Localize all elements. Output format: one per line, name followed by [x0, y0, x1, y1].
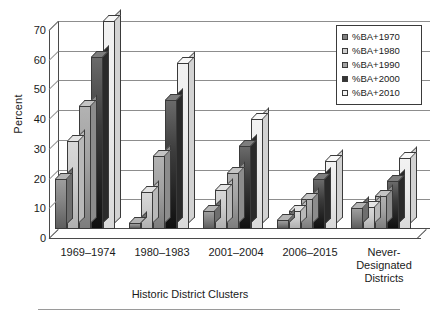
- legend-swatch-icon: [342, 34, 348, 40]
- x-tick-label: 2001–2004: [197, 246, 275, 259]
- bar-ba1970-2[interactable]: [129, 223, 141, 229]
- y-axis-tick-labels: 010203040506070: [16, 0, 46, 260]
- bar-side-face: [189, 51, 195, 223]
- legend-item[interactable]: %BA+1970: [342, 30, 417, 44]
- bar-side-face: [411, 146, 417, 223]
- x-tick-label: Never- Designated Districts: [345, 246, 423, 285]
- legend-swatch-icon: [342, 62, 348, 68]
- bar-side-face: [103, 45, 109, 223]
- legend-swatch-icon: [342, 48, 348, 54]
- y-tick-label: 10: [16, 203, 46, 214]
- legend-item[interactable]: %BA+2000: [342, 72, 417, 86]
- bar-side-face: [91, 94, 97, 223]
- bar-ba1970-3[interactable]: [203, 211, 215, 229]
- bar-ba1970-5[interactable]: [351, 208, 363, 229]
- x-axis-title: Historic District Clusters: [0, 288, 380, 300]
- bottom-divider: [38, 309, 400, 310]
- bar-body: [141, 192, 153, 229]
- y-tick-label: 50: [16, 84, 46, 95]
- bar-group: [203, 21, 271, 229]
- x-tick-label: 2006–2015: [271, 246, 349, 259]
- legend-swatch-icon: [342, 76, 348, 82]
- legend-label: %BA+1970: [352, 32, 400, 42]
- bar-side-face: [263, 107, 269, 223]
- bar-body: [129, 223, 141, 229]
- legend-swatch-icon: [342, 90, 348, 96]
- chart-legend: %BA+1970%BA+1980%BA+1990%BA+2000%BA+2010: [336, 25, 422, 105]
- bar-ba1980-2[interactable]: [141, 192, 153, 229]
- y-tick-label: 0: [16, 233, 46, 244]
- x-tick-label: 1969–1974: [49, 246, 127, 259]
- bar-body: [351, 208, 363, 229]
- y-tick-label: 70: [16, 25, 46, 36]
- legend-label: %BA+1990: [352, 60, 400, 70]
- bar-side-face: [251, 134, 257, 223]
- grouped-bar-chart: Percent 010203040506070 1969–19741980–19…: [0, 0, 440, 318]
- y-tick-label: 20: [16, 173, 46, 184]
- bar-group: [277, 21, 345, 229]
- legend-label: %BA+1980: [352, 46, 400, 56]
- bar-body: [55, 179, 67, 230]
- bar-side-face: [79, 130, 85, 223]
- legend-label: %BA+2000: [352, 74, 400, 84]
- legend-item[interactable]: %BA+1990: [342, 58, 417, 72]
- bar-side-face: [165, 144, 171, 223]
- bar-body: [277, 220, 289, 229]
- bar-ba1970-4[interactable]: [277, 220, 289, 229]
- legend-item[interactable]: %BA+2010: [342, 86, 417, 100]
- y-tick-label: 40: [16, 114, 46, 125]
- bar-group: [55, 21, 123, 229]
- legend-label: %BA+2010: [352, 88, 400, 98]
- x-axis-line: [49, 238, 421, 239]
- bar-group: [129, 21, 197, 229]
- legend-item[interactable]: %BA+1980: [342, 44, 417, 58]
- y-tick-label: 30: [16, 143, 46, 154]
- bar-body: [203, 211, 215, 229]
- bar-ba1970-1[interactable]: [55, 179, 67, 230]
- bar-side-face: [177, 88, 183, 223]
- x-tick-label: 1980–1983: [123, 246, 201, 259]
- y-tick-label: 60: [16, 54, 46, 65]
- bar-side-face: [115, 9, 121, 223]
